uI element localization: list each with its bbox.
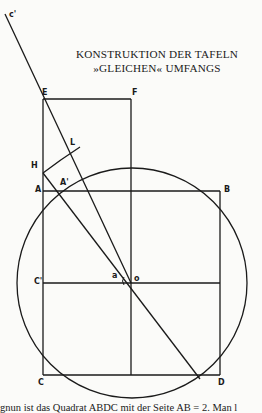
label-F: F [132,89,137,97]
label-L: L [70,139,75,147]
caption-text: gnun ist das Quadrat ABDC mit der Seite … [0,402,262,413]
label-E: E [42,89,47,97]
label-B: B [224,186,230,194]
angle-alpha-arc [123,277,125,285]
label-H: H [31,162,38,170]
label-D: D [218,379,225,387]
label-A-prime: A' [60,179,69,187]
arc-H-L [43,147,80,173]
label-A: A [35,186,41,194]
label-c-prime-top: c' [9,11,16,19]
line-H-O-D [43,173,200,379]
label-C: C [38,379,44,387]
label-C-prime: C' [34,278,42,286]
geometric-construction [0,0,262,413]
label-alpha: a [112,272,117,280]
label-O: o [134,275,140,283]
